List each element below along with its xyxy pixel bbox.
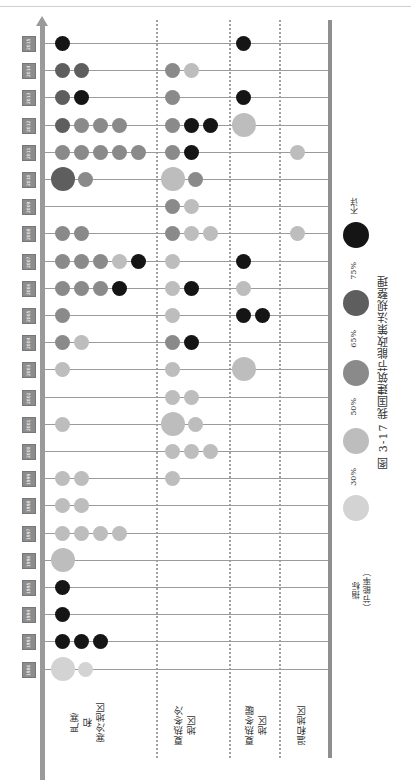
policy-bubble	[74, 281, 89, 296]
year-line	[44, 614, 328, 615]
legend-label-65: 65%	[349, 330, 358, 348]
policy-bubble	[131, 145, 146, 160]
policy-bubble	[236, 281, 251, 296]
policy-bubble	[232, 357, 256, 381]
year-label: 1995	[22, 580, 36, 596]
policy-bubble	[165, 90, 180, 105]
policy-bubble	[74, 634, 89, 649]
policy-bubble	[55, 63, 70, 78]
policy-bubble	[165, 118, 180, 133]
year-label: 2002	[22, 390, 36, 406]
year-label: 2014	[22, 63, 36, 79]
policy-bubble	[55, 471, 70, 486]
policy-bubble	[55, 580, 70, 595]
policy-bubble	[165, 362, 180, 377]
year-label: 2003	[22, 362, 36, 378]
policy-bubble	[165, 254, 180, 269]
policy-bubble	[112, 526, 127, 541]
figure-caption: 图 3-17 我国建筑节能政策法规整理	[376, 275, 392, 469]
year-label: 2010	[22, 172, 36, 188]
policy-bubble	[165, 145, 180, 160]
policy-bubble	[184, 145, 199, 160]
policy-bubble	[55, 634, 70, 649]
legend-swatch-unknown	[343, 222, 369, 248]
policy-bubble	[161, 167, 185, 191]
policy-bubble	[232, 113, 256, 137]
policy-bubble	[55, 308, 70, 323]
policy-bubble	[112, 145, 127, 160]
policy-bubble	[55, 362, 70, 377]
policy-bubble	[165, 63, 180, 78]
policy-bubble	[55, 118, 70, 133]
policy-timeline-chart: 2015201420132012201120102009200820072006…	[0, 0, 411, 781]
policy-bubble	[74, 118, 89, 133]
legend-swatch-30	[343, 495, 369, 521]
policy-bubble	[74, 335, 89, 350]
policy-bubble	[55, 36, 70, 51]
policy-bubble	[74, 526, 89, 541]
policy-bubble	[165, 444, 180, 459]
policy-bubble	[236, 90, 251, 105]
zone-label-hot-summer-warm-winter: 夏热冬暖 地区	[243, 690, 269, 760]
policy-bubble	[165, 226, 180, 241]
policy-bubble	[74, 498, 89, 513]
year-label: 2007	[22, 254, 36, 270]
policy-bubble	[131, 254, 146, 269]
zone-separator-2	[229, 20, 231, 758]
policy-bubble	[184, 444, 199, 459]
year-label: 2015	[22, 36, 36, 52]
policy-bubble	[78, 662, 93, 677]
policy-bubble	[184, 335, 199, 350]
year-label: 1996	[22, 553, 36, 569]
legend-swatch-65	[343, 360, 369, 386]
policy-bubble	[74, 254, 89, 269]
policy-bubble	[165, 335, 180, 350]
year-label: 2011	[22, 145, 36, 161]
policy-bubble	[55, 607, 70, 622]
policy-bubble	[165, 390, 180, 405]
policy-bubble	[184, 199, 199, 214]
year-label: 2005	[22, 308, 36, 324]
policy-bubble	[93, 145, 108, 160]
year-label: 2006	[22, 281, 36, 297]
legend-label-30: 30%	[349, 468, 358, 486]
legend-swatch-75	[343, 290, 369, 316]
legend-label-75: 75%	[349, 262, 358, 280]
policy-bubble	[165, 199, 180, 214]
policy-bubble	[165, 471, 180, 486]
policy-bubble	[74, 63, 89, 78]
year-label: 1999	[22, 471, 36, 487]
year-label: 2009	[22, 199, 36, 215]
policy-bubble	[112, 254, 127, 269]
policy-bubble	[290, 145, 305, 160]
year-label: 2012	[22, 118, 36, 134]
policy-bubble	[78, 172, 93, 187]
policy-bubble	[51, 548, 75, 572]
year-label: 2013	[22, 90, 36, 106]
year-line	[44, 315, 328, 316]
legend-label-unknown: 不详	[349, 198, 360, 214]
zone-separator-1	[156, 20, 158, 758]
policy-bubble	[55, 526, 70, 541]
policy-bubble	[236, 36, 251, 51]
year-line	[44, 369, 328, 370]
year-label: 2000	[22, 444, 36, 460]
policy-bubble	[290, 226, 305, 241]
policy-bubble	[165, 281, 180, 296]
policy-bubble	[184, 63, 199, 78]
policy-bubble	[55, 335, 70, 350]
policy-bubble	[55, 90, 70, 105]
legend-title: 指标 （节能率）	[352, 560, 374, 620]
policy-bubble	[184, 390, 199, 405]
policy-bubble	[55, 417, 70, 432]
time-axis	[40, 22, 45, 780]
year-line	[44, 424, 328, 425]
zone-label-hot-summer-cold-winter: 夏热冬冷 地区	[172, 690, 198, 760]
policy-bubble	[51, 657, 75, 681]
policy-bubble	[184, 118, 199, 133]
policy-bubble	[55, 281, 70, 296]
legend-label-50: 50%	[349, 398, 358, 416]
policy-bubble	[55, 226, 70, 241]
chart-right-border	[328, 20, 332, 758]
legend-swatch-50	[343, 428, 369, 454]
